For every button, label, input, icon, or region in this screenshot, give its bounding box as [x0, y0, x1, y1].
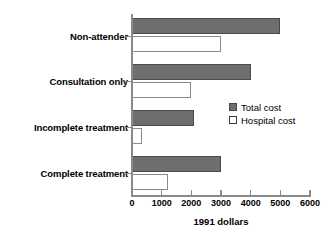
- x-axis-tick-2: [191, 190, 192, 196]
- y-axis-label-1: Consultation only: [4, 76, 128, 87]
- x-axis-tick-label-4: 4000: [241, 198, 261, 208]
- y-axis-label-3: Complete treatment: [4, 168, 128, 179]
- legend-swatch-hospital-cost-icon: [229, 116, 237, 124]
- legend-item-hospital-cost: Hospital cost: [229, 114, 313, 126]
- bar-hospital-cost-incomplete-treatment: [132, 128, 142, 144]
- bar-chart: Non-attender Consultation only Incomplet…: [0, 0, 335, 245]
- x-axis-tick-label-3: 3000: [211, 198, 231, 208]
- x-axis-title: 1991 dollars: [131, 216, 311, 227]
- bar-total-cost-consultation-only: [132, 64, 251, 80]
- y-axis-label-2: Incomplete treatment: [4, 122, 128, 133]
- x-axis-tick-6: [309, 190, 310, 196]
- chart-legend: Total cost Hospital cost: [229, 101, 313, 127]
- legend-label-total-cost: Total cost: [241, 102, 281, 113]
- bar-total-cost-complete-treatment: [132, 156, 221, 172]
- x-axis-tick-3: [220, 190, 221, 196]
- x-axis-tick-0: [131, 190, 132, 196]
- chart-screenshot: Non-attender Consultation only Incomplet…: [0, 0, 335, 245]
- bar-hospital-cost-consultation-only: [132, 82, 191, 98]
- y-axis-line: [131, 14, 133, 196]
- x-axis-tick-label-2: 2000: [181, 198, 201, 208]
- x-axis-tick-label-5: 5000: [270, 198, 290, 208]
- y-axis-category-labels: Non-attender Consultation only Incomplet…: [0, 0, 128, 245]
- legend-label-hospital-cost: Hospital cost: [241, 115, 295, 126]
- legend-swatch-total-cost-icon: [229, 103, 237, 111]
- y-axis-label-0: Non-attender: [4, 31, 128, 42]
- bar-hospital-cost-complete-treatment: [132, 174, 168, 190]
- x-axis-tick-label-0: 0: [129, 198, 134, 208]
- x-axis-tick-label-6: 6000: [300, 198, 320, 208]
- bar-total-cost-incomplete-treatment: [132, 110, 194, 126]
- legend-item-total-cost: Total cost: [229, 101, 313, 113]
- x-axis-tick-1: [161, 190, 162, 196]
- x-axis-tick-label-1: 1000: [152, 198, 172, 208]
- x-axis-tick-4: [250, 190, 251, 196]
- bar-hospital-cost-non-attender: [132, 36, 221, 52]
- x-axis-tick-5: [280, 190, 281, 196]
- bar-total-cost-non-attender: [132, 18, 280, 34]
